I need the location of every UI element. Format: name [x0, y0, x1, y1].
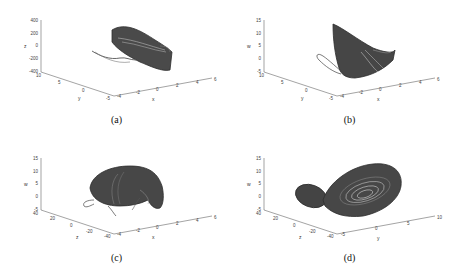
left-depth-axis-ticks: 10 5 0 -5 [36, 73, 110, 101]
tick-label: 5 [407, 221, 410, 226]
panel-b: 15 10 5 0 -5 w 10 5 0 -5 y -4 -2 0 2 4 6… [233, 0, 466, 138]
tick-label: 400 [30, 18, 38, 23]
tick-label: -2 [136, 228, 140, 233]
tick-label: 10 [36, 73, 42, 78]
tick-label: 20 [50, 216, 56, 221]
tick-label: -5 [329, 96, 333, 101]
vertical-axis-ticks: 400 200 0 -200 -400 [29, 18, 39, 74]
vertical-axis-ticks: 15 10 5 0 -5 [256, 156, 262, 212]
tick-label: 10 [259, 73, 265, 78]
right-axis-ticks: -4 -2 0 2 4 6 [117, 215, 217, 237]
tick-label: 6 [437, 77, 440, 82]
vertical-axis-label: w [247, 181, 251, 187]
right-axis-label: y [377, 235, 380, 241]
left-depth-axis-label: z [299, 234, 302, 240]
caption-c: (c) [0, 252, 233, 263]
tick-label: -5 [341, 232, 345, 237]
left-depth-axis-label: z [76, 234, 79, 240]
caption-b: (b) [233, 114, 466, 125]
caption-a: (a) [0, 114, 233, 125]
tick-label: 0 [293, 223, 296, 228]
left-depth-axis-label: y [78, 95, 81, 101]
tick-label: 5 [35, 181, 38, 186]
tick-label: 5 [281, 80, 284, 85]
tick-label: -4 [117, 232, 121, 237]
tick-label: 6 [214, 77, 217, 82]
right-axis-ticks: -5 0 5 10 [341, 215, 443, 237]
tick-label: -4 [340, 94, 344, 99]
tick-label: -4 [117, 94, 121, 99]
tick-label: -2 [359, 90, 363, 95]
tick-label: -200 [29, 56, 39, 61]
tick-label: 5 [58, 80, 61, 85]
tick-label: -40 [327, 234, 334, 239]
tick-label: 5 [258, 181, 261, 186]
tick-label: 10 [33, 169, 39, 174]
tick-label: 5 [258, 43, 261, 48]
left-depth-axis-ticks: 40 20 0 -20 -40 [256, 211, 334, 239]
vertical-axis-ticks: 15 10 5 0 -5 [256, 18, 262, 74]
attractor-trajectory [317, 24, 395, 78]
tick-label: -40 [104, 234, 111, 239]
tick-label: 200 [30, 31, 38, 36]
tick-label: 10 [437, 215, 443, 220]
tick-label: 2 [176, 221, 179, 226]
panel-a: 400 200 0 -200 -400 z 10 5 0 -5 y -4 -2 … [0, 0, 233, 138]
tick-label: 0 [70, 223, 73, 228]
tick-label: 2 [176, 83, 179, 88]
vertical-axis-label: w [247, 43, 251, 49]
vertical-axis-label: w [24, 181, 28, 187]
tick-label: 6 [214, 215, 217, 220]
tick-label: 0 [258, 194, 261, 199]
right-axis-ticks: -4 -2 0 2 4 6 [117, 77, 217, 99]
panel-d: 15 10 5 0 -5 w 40 20 0 -20 -40 z -5 0 5 … [233, 138, 466, 276]
attractor-trajectory [92, 27, 172, 71]
tick-label: -2 [136, 90, 140, 95]
attractor-trajectory [292, 164, 401, 217]
right-axis-label: x [152, 96, 155, 102]
left-depth-axis-ticks: 40 20 0 -20 -40 [33, 211, 111, 239]
tick-label: -5 [106, 96, 110, 101]
tick-label: 2 [399, 83, 402, 88]
tick-label: 40 [33, 211, 39, 216]
vertical-axis-label: z [24, 43, 27, 49]
panel-c: 15 10 5 0 -5 w 40 20 0 -20 -40 z -4 -2 0… [0, 138, 233, 276]
right-axis-label: x [152, 234, 155, 240]
tick-label: 15 [33, 156, 39, 161]
right-axis-label: x [377, 96, 380, 102]
attractor-trajectory [84, 166, 164, 216]
tick-label: 0 [305, 88, 308, 93]
tick-label: 0 [258, 56, 261, 61]
tick-label: 0 [82, 88, 85, 93]
right-axis-ticks: -4 -2 0 2 4 6 [340, 77, 440, 99]
tick-label: 15 [256, 18, 262, 23]
tick-label: 20 [273, 216, 279, 221]
tick-label: 40 [256, 211, 262, 216]
tick-label: 10 [256, 31, 262, 36]
left-depth-axis-label: y [301, 95, 304, 101]
tick-label: 15 [256, 156, 262, 161]
tick-label: 0 [35, 194, 38, 199]
tick-label: -20 [86, 229, 93, 234]
caption-d: (d) [233, 252, 466, 263]
tick-label: 0 [35, 43, 38, 48]
tick-label: -20 [309, 229, 316, 234]
left-depth-axis-ticks: 10 5 0 -5 [259, 73, 333, 101]
tick-label: 10 [256, 169, 262, 174]
vertical-axis-ticks: 15 10 5 0 -5 [33, 156, 39, 212]
